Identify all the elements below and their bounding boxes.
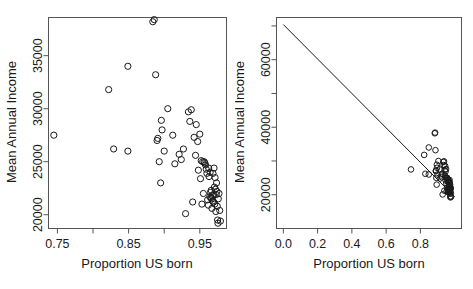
x-tick-label: 0.6	[377, 237, 394, 251]
data-point	[197, 176, 203, 182]
data-point	[178, 156, 184, 162]
y-tick-label: 40000	[260, 110, 274, 145]
axis-tick-labels: 0.00.20.40.60.8200004000060000	[260, 42, 430, 250]
data-point	[156, 159, 162, 165]
data-point	[153, 72, 159, 78]
x-axis-label: Proportion US born	[313, 256, 424, 271]
data-point	[192, 152, 198, 158]
data-point	[193, 121, 199, 127]
data-point	[170, 132, 176, 138]
regression-line	[283, 25, 454, 197]
data-point	[161, 148, 167, 154]
data-point	[190, 199, 196, 205]
scatter-plot-figure: 0.750.850.9520000250003000035000 Proport…	[0, 0, 473, 289]
data-point	[195, 167, 201, 173]
panel-right-full-range-scatter: 0.00.20.40.60.8200004000060000 Proportio…	[235, 0, 473, 289]
right-panel-svg: 0.00.20.40.60.8200004000060000 Proportio…	[235, 0, 473, 289]
y-tick-label: 30000	[32, 91, 46, 126]
data-point	[200, 190, 206, 196]
data-point	[434, 182, 440, 188]
x-tick-label: 0.0	[275, 237, 292, 251]
data-point	[197, 131, 203, 137]
left-panel-svg: 0.750.850.9520000250003000035000 Proport…	[0, 0, 238, 289]
x-tick-label: 0.85	[116, 237, 140, 251]
data-point	[426, 145, 432, 151]
data-point	[125, 63, 131, 69]
data-point	[106, 87, 112, 93]
y-tick-label: 60000	[260, 42, 274, 77]
data-point	[187, 118, 193, 124]
data-point	[159, 127, 165, 133]
data-point	[199, 201, 205, 207]
plot-frame	[49, 18, 227, 229]
data-point	[421, 152, 427, 158]
axis-ticks	[272, 26, 421, 234]
data-point	[182, 211, 188, 217]
x-tick-label: 0.4	[343, 237, 360, 251]
y-axis-label: Mean Annual Income	[235, 61, 247, 183]
y-axis-label: Mean Annual Income	[4, 61, 19, 183]
data-point	[125, 148, 131, 154]
data-point	[158, 117, 164, 123]
x-tick-label: 0.95	[188, 237, 212, 251]
data-point	[165, 106, 171, 112]
x-tick-label: 0.75	[45, 237, 69, 251]
panel-left-zoomed-scatter: 0.750.850.9520000250003000035000 Proport…	[0, 0, 238, 289]
x-tick-label: 0.8	[412, 237, 429, 251]
x-axis-label: Proportion US born	[81, 256, 192, 271]
data-points	[408, 130, 454, 200]
axis-ticks	[44, 56, 200, 234]
y-tick-label: 20000	[260, 177, 274, 212]
data-point	[51, 132, 57, 138]
data-point	[426, 172, 432, 178]
data-point	[158, 180, 164, 186]
data-point	[111, 146, 117, 152]
plot-frame	[277, 18, 462, 229]
data-point	[191, 134, 197, 140]
axis-tick-labels: 0.750.850.9520000250003000035000	[32, 38, 213, 250]
y-tick-label: 20000	[32, 197, 46, 232]
y-tick-label: 35000	[32, 38, 46, 73]
data-point	[433, 147, 439, 153]
y-tick-label: 25000	[32, 144, 46, 179]
data-points	[51, 17, 224, 227]
data-point	[408, 167, 414, 173]
data-point	[180, 146, 186, 152]
data-point	[172, 161, 178, 167]
data-point	[195, 138, 201, 144]
x-tick-label: 0.2	[309, 237, 326, 251]
